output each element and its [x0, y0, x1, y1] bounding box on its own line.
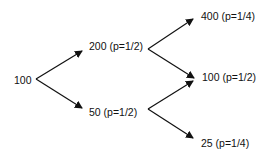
- edge-down-to-downdown: [148, 109, 193, 138]
- node-down: 50 (p=1/2): [89, 106, 137, 118]
- binomial-tree-diagram: 100 200 (p=1/2) 50 (p=1/2) 400 (p=1/4) 1…: [0, 0, 262, 159]
- node-up: 200 (p=1/2): [89, 40, 143, 52]
- edge-up-to-middle: [148, 49, 194, 78]
- node-root: 100: [14, 74, 32, 86]
- node-middle: 100 (p=1/2): [202, 71, 256, 83]
- node-up-up: 400 (p=1/4): [201, 10, 255, 22]
- edge-up-to-upup: [148, 19, 193, 49]
- edge-down-to-middle: [148, 81, 193, 109]
- edge-root-to-up: [36, 51, 82, 79]
- edge-root-to-down: [36, 79, 82, 108]
- node-down-down: 25 (p=1/4): [201, 137, 249, 149]
